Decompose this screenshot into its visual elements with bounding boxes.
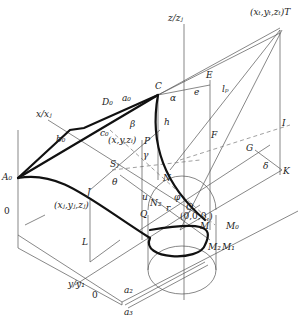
label-a0: a₀: [122, 94, 131, 103]
label-beta: β: [130, 120, 135, 129]
label-C: C: [155, 82, 162, 91]
base-tick: [25, 215, 45, 225]
label-a3: a₃: [124, 308, 133, 317]
label-Sj: Sⱼ: [110, 160, 119, 169]
label-y-axis: y/y₁: [68, 280, 85, 289]
label-theta: θ: [112, 178, 117, 187]
label-T: (xₜ,yₜ,zₜ)T: [250, 8, 290, 17]
label-N2: N₂: [150, 199, 161, 208]
label-gamma: γ: [143, 151, 148, 160]
label-h: h: [164, 118, 170, 127]
label-Q: Q: [140, 210, 147, 219]
label-e: e: [194, 88, 199, 97]
label-K: K: [283, 167, 290, 176]
label-N: N: [163, 174, 171, 183]
label-L: L: [82, 238, 88, 247]
label-x-axis: x/xⱼ: [36, 110, 52, 119]
label-phi: φ: [174, 193, 180, 202]
label-M: M: [200, 222, 209, 231]
label-G: G: [246, 144, 253, 153]
geometry-drawing: [0, 0, 298, 322]
label-xyz: (x,y,zᵢ): [108, 136, 136, 145]
diagram-canvas: (xₜ,yₜ,zₜ)T z/zⱼ x/xⱼ y/y₁ C E e lₚ α h …: [0, 0, 298, 322]
label-E: E: [206, 71, 213, 80]
line-G-K: [255, 150, 282, 170]
label-P: P: [144, 137, 150, 146]
label-origin: (0,0,0,): [180, 212, 213, 221]
base-box-top: [18, 210, 298, 302]
label-J-coord: (xⱼ,yⱼ,zⱼ): [54, 201, 89, 210]
dashed-line-I: [180, 125, 290, 160]
label-lp: lₚ: [222, 85, 228, 94]
label-delta: δ: [263, 162, 268, 171]
label-u: u: [142, 193, 148, 202]
line-C-T: [158, 28, 280, 95]
base-strip-a: [125, 262, 205, 305]
label-M1: M₁: [222, 243, 235, 252]
label-a2: a₂: [124, 286, 133, 295]
label-M2: M₂: [208, 243, 221, 252]
label-J: J: [87, 188, 91, 197]
label-zero-left: 0: [4, 207, 10, 216]
label-alpha: α: [170, 94, 176, 103]
curve-A0-C: [18, 95, 158, 178]
label-zero-bottom: 0: [92, 291, 98, 300]
label-F: F: [211, 131, 217, 140]
label-M0: M₀: [226, 222, 239, 231]
label-r: r: [166, 204, 170, 213]
label-A0: A₀: [2, 173, 12, 182]
label-I: I: [282, 119, 286, 128]
label-D0: D₀: [102, 98, 113, 107]
base-strip-b: [128, 265, 208, 308]
base-box-front: [18, 248, 122, 305]
label-z-axis: z/zⱼ: [168, 14, 183, 23]
label-b0: b₀: [56, 135, 65, 144]
line-C-T2: [158, 33, 280, 95]
